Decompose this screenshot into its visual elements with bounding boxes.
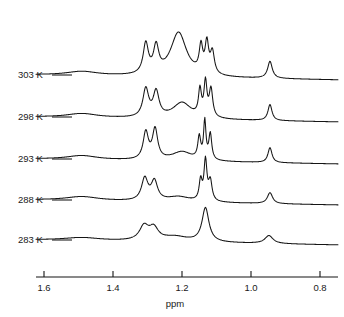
trace-label-298k: 298 K	[18, 111, 43, 122]
axis-tick-label-0-8: 0.8	[313, 282, 326, 293]
nmr-stack-plot-figure: 303 K298 K293 K288 K283 K 1.61.41.21.00.…	[0, 0, 344, 317]
axis-tick-label-1-2: 1.2	[175, 282, 188, 293]
axis-tick-label-1-4: 1.4	[106, 282, 119, 293]
axis-tick-label-1-0: 1.0	[244, 282, 257, 293]
trace-label-293k: 293 K	[18, 153, 43, 164]
trace-label-283k: 283 K	[18, 234, 43, 245]
trace-label-303k: 303 K	[18, 69, 43, 80]
axis-tick-label-1-6: 1.6	[37, 282, 50, 293]
axis-title: ppm	[166, 298, 185, 309]
trace-label-288k: 288 K	[18, 194, 43, 205]
